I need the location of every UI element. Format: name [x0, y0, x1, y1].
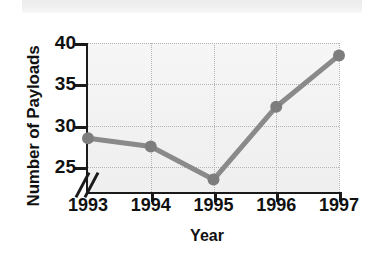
scan-artifact-band — [22, 0, 362, 13]
gridline-vertical — [339, 43, 340, 192]
data-point-marker — [333, 49, 345, 61]
x-axis-tick-label: 1997 — [319, 195, 359, 216]
data-point-marker — [208, 174, 220, 186]
y-axis-tick-label: 40 — [55, 32, 78, 54]
y-axis-tick-label: 30 — [55, 115, 78, 137]
x-axis-tick-label: 1996 — [256, 195, 296, 216]
plot-area: 25303540 19931994199519961997 — [86, 43, 339, 194]
series-line — [88, 55, 339, 179]
x-axis-tick-label: 1995 — [193, 195, 233, 216]
data-point-marker — [145, 140, 157, 152]
x-axis-title: Year — [76, 227, 338, 245]
x-axis-tick-label: 1994 — [131, 195, 171, 216]
data-series — [88, 43, 339, 192]
data-point-marker — [82, 132, 94, 144]
chart-figure: Number of Payloads 25303540 199319941995… — [0, 0, 374, 254]
data-point-marker — [270, 101, 282, 113]
y-axis-title: Number of Payloads — [24, 31, 44, 221]
y-axis-tick-label: 25 — [55, 156, 78, 178]
series-markers — [82, 49, 345, 185]
y-axis-tick-label: 35 — [55, 73, 78, 95]
